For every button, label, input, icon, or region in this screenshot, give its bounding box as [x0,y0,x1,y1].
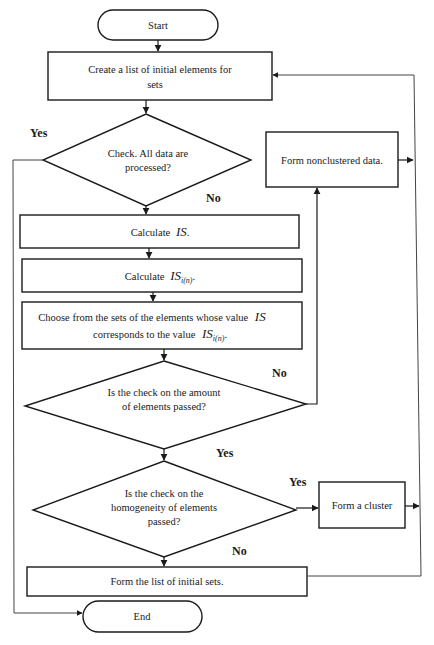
choose-box: Choose from the sets of the elements who… [22,302,302,349]
end-label: End [134,611,152,622]
decision-amount: Is the check on the amount of elements p… [25,361,306,449]
decision1-yes-label: Yes [30,126,48,140]
create-list-line2: sets [147,79,163,90]
create-list-line1: Create a list of initial elements for [88,64,232,75]
decision2-no-label: No [272,366,287,380]
flowchart: Start Create a list of initial elements … [0,0,434,645]
calculate-is-in-box: Calculate ISi(n). [22,259,302,292]
start-terminal: Start [98,10,218,40]
end-terminal: End [83,601,202,632]
calculate-is-box: Calculate IS. [20,215,299,248]
form-cluster-box: Form a cluster [319,482,405,528]
start-label: Start [148,20,168,31]
calculate-is-text: Calculate IS. [131,224,190,239]
arrow-decision2-no-to-nonclustered [306,188,317,404]
decision1-line1: Check. All data are [108,148,189,159]
form-list-label: Form the list of initial sets. [110,576,223,587]
decision2-yes-label: Yes [216,446,234,460]
create-list-box: Create a list of initial elements for se… [48,52,272,100]
decision1-line2: processed? [125,162,171,173]
form-nonclustered-box: Form nonclustered data. [266,132,398,187]
choose-line1: Choose from the sets of the elements who… [38,309,266,324]
decision3-line3: passed? [148,516,181,527]
decision2-line1: Is the check on the amount [108,387,221,398]
decision3-line1: Is the check on the [125,488,204,499]
decision3-yes-label: Yes [289,475,307,489]
decision3-line2: homogeneity of elements [111,502,217,513]
form-cluster-label: Form a cluster [332,500,393,511]
form-nonclustered-label: Form nonclustered data. [281,155,383,166]
decision-homogeneity: Is the check on the homogeneity of eleme… [33,461,296,557]
decision1-no-label: No [206,191,221,205]
decision2-line2: of elements passed? [122,401,206,412]
decision3-no-label: No [232,544,247,558]
form-list-box: Form the list of initial sets. [27,567,307,596]
